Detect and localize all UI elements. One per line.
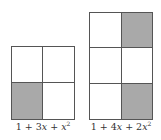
figure-right: [89, 12, 153, 120]
cell-r1-c1: [121, 47, 153, 84]
cell-r2-c1-shaded: [121, 83, 153, 120]
cell-r1-c1: [42, 82, 75, 120]
cell-r0-c1-shaded: [121, 12, 153, 48]
cell-r1-c0: [89, 47, 122, 84]
cell-r0-c0: [89, 12, 122, 48]
cell-r0-c0: [11, 46, 43, 83]
cell-r2-c0: [89, 83, 122, 120]
figure-right-label: 1 + 4x + 2x2: [86, 121, 156, 132]
figure-left-label: 1 + 3x + x2: [11, 121, 75, 132]
cell-r0-c1: [42, 46, 75, 83]
cell-r1-c0-shaded: [11, 82, 43, 120]
figure-left: [11, 46, 75, 120]
